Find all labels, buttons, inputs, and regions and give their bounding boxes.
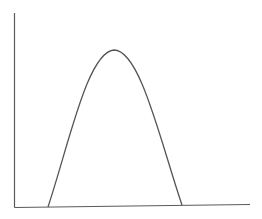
curve-line	[48, 50, 182, 207]
chart	[0, 0, 262, 219]
x-axis	[15, 205, 251, 208]
